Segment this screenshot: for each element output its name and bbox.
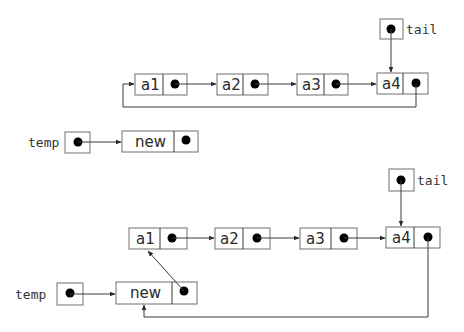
after-state: tail a1 a2 a3 [15, 169, 448, 317]
node-a2-before: a2 [217, 74, 296, 95]
node-value: new [135, 133, 166, 151]
node-value: a4 [382, 75, 401, 93]
temp-pointer-before: temp [28, 132, 121, 153]
pointer-dot-icon [182, 136, 191, 145]
node-value: a4 [392, 229, 411, 247]
tail-pointer-after: tail [389, 169, 448, 226]
temp-pointer-after: temp [15, 283, 115, 305]
tail-label: tail [417, 173, 448, 188]
pointer-dot-icon [66, 289, 75, 298]
node-value: a1 [141, 76, 160, 94]
node-a3-before: a3 [297, 74, 376, 95]
node-value: a1 [136, 230, 155, 248]
node-value: new [130, 284, 161, 302]
linked-list-diagram: tail a1 a2 a3 [0, 0, 464, 332]
node-value: a3 [306, 230, 325, 248]
node-a1-after: a1 [129, 228, 214, 249]
temp-label: temp [15, 287, 46, 302]
tail-label: tail [406, 22, 437, 37]
node-value: a2 [220, 230, 239, 248]
new-node-after: new [116, 251, 197, 304]
temp-label: temp [28, 135, 59, 150]
node-value: a2 [222, 76, 241, 94]
node-a2-after: a2 [215, 228, 299, 249]
node-a3-after: a3 [300, 228, 385, 249]
node-value: a3 [302, 76, 321, 94]
before-state: tail a1 a2 a3 [28, 19, 437, 153]
node-a1-before: a1 [135, 74, 216, 95]
tail-pointer-before: tail [380, 19, 437, 72]
new-node-before: new [122, 131, 198, 152]
